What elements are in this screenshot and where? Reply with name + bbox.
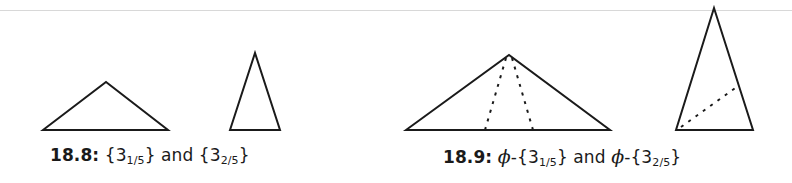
phi-symbol: ϕ	[498, 145, 511, 167]
symbol-2: {32/5}	[199, 145, 250, 165]
triangle-phi-3-1-5	[406, 55, 610, 130]
symbol-1: {31/5}	[105, 145, 156, 165]
figure-number: 18.8:	[50, 145, 99, 165]
dashed-line	[681, 86, 738, 127]
conjunction: and	[156, 145, 199, 165]
triangle-3-2-5	[230, 53, 280, 130]
caption-18-8: 18.8: {31/5} and {32/5}	[50, 145, 250, 165]
triangle-3-1-5	[43, 82, 168, 130]
dashed-dissection-lines	[485, 58, 738, 130]
symbol-1: ϕ-{31/5}	[498, 147, 568, 167]
caption-18-9: 18.9: ϕ-{31/5} and ϕ-{32/5}	[443, 145, 681, 167]
dashed-line	[485, 58, 506, 130]
triangle-phi-3-2-5	[676, 8, 753, 130]
dashed-line	[512, 58, 533, 130]
figure-number: 18.9:	[443, 147, 492, 167]
symbol-2: ϕ-{32/5}	[611, 147, 681, 167]
phi-symbol: ϕ	[611, 145, 624, 167]
conjunction: and	[568, 147, 611, 167]
